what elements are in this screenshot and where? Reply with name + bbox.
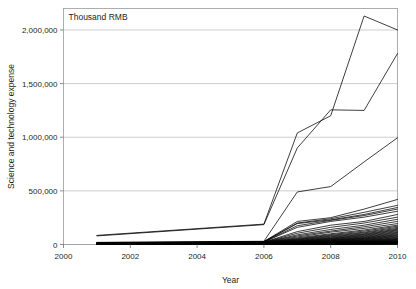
y-tick-label: 500,000 xyxy=(29,187,58,196)
x-tick-label: 2002 xyxy=(121,252,139,261)
gridlines-group xyxy=(64,30,398,245)
series-group xyxy=(97,16,398,244)
x-tick-label: 2008 xyxy=(322,252,340,261)
y-tick-label: 2,000,000 xyxy=(22,26,58,35)
y-tick-label: 0 xyxy=(53,241,58,250)
x-tick-label: 2010 xyxy=(389,252,407,261)
y-axis-group: 0500,0001,000,0001,500,0002,000,000 xyxy=(22,26,64,250)
series-line xyxy=(97,54,398,236)
science-technology-expense-line-chart: 200020022004200620082010 0500,0001,000,0… xyxy=(0,0,416,289)
chart-container: 200020022004200620082010 0500,0001,000,0… xyxy=(0,0,416,289)
y-axis-title: Science and technology expense xyxy=(6,64,16,189)
plot-frame-group xyxy=(64,9,398,245)
plot-frame xyxy=(64,9,398,245)
x-tick-label: 2006 xyxy=(255,252,273,261)
unit-label: Thousand RMB xyxy=(69,12,128,22)
y-tick-label: 1,500,000 xyxy=(22,80,58,89)
x-axis-title: Year xyxy=(222,275,239,285)
series-line xyxy=(97,16,398,235)
x-tick-label: 2000 xyxy=(55,252,73,261)
y-tick-label: 1,000,000 xyxy=(22,133,58,142)
x-tick-label: 2004 xyxy=(188,252,206,261)
x-axis-group: 200020022004200620082010 xyxy=(55,245,407,261)
